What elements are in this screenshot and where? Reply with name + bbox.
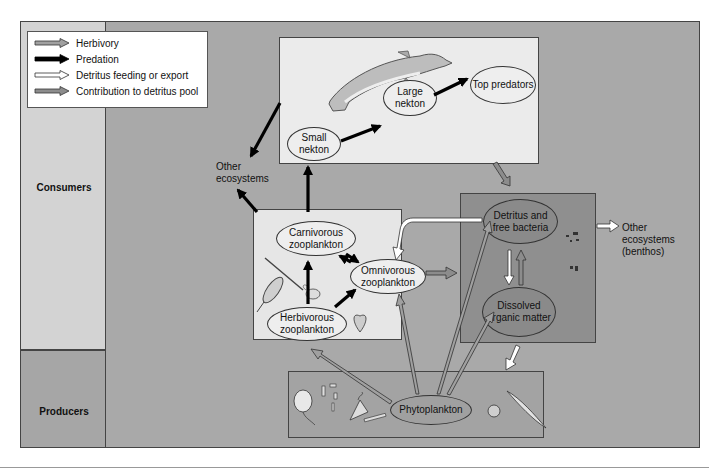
node-small-nekton: Small nekton (287, 127, 341, 161)
node-carnivorous-zooplankton: Carnivorous zooplankton (276, 221, 356, 256)
consumers-label: Consumers (21, 182, 107, 193)
legend-item-detritus-feeding: Detritus feeding or export (34, 68, 188, 82)
node-herbivorous-zooplankton: Herbivorous zooplankton (267, 307, 347, 341)
legend-item-herbivory: Herbivory (34, 36, 119, 50)
contribution-arrow-icon (34, 86, 70, 96)
legend-label: Herbivory (76, 38, 119, 49)
legend-label: Detritus feeding or export (76, 70, 188, 81)
legend-item-contribution: Contribution to detritus pool (34, 84, 198, 98)
producers-band: Producers (20, 350, 106, 448)
detritus-feeding-arrow-icon (34, 70, 70, 80)
node-omnivorous-zooplankton: Omnivorous zooplankton (350, 259, 426, 294)
other-ecosystems-benthos-label: Other ecosystems (benthos) (622, 222, 675, 258)
herbivory-arrow-icon (34, 38, 70, 48)
node-top-predators: Top predators (470, 66, 536, 104)
legend-label: Predation (76, 54, 119, 65)
node-dissolved-organic-matter: Dissolved organic matter (482, 287, 556, 337)
node-phytoplankton: Phytoplankton (390, 395, 472, 425)
legend: Herbivory Predation Detritus feeding or … (27, 31, 208, 108)
legend-label: Contribution to detritus pool (76, 86, 198, 97)
node-large-nekton: Large nekton (383, 80, 437, 116)
legend-item-predation: Predation (34, 52, 119, 66)
predation-arrow-icon (34, 54, 70, 64)
producers-label: Producers (21, 406, 107, 417)
bottom-rule (0, 467, 709, 468)
node-detritus-bacteria: Detritus and free bacteria (483, 199, 558, 244)
other-ecosystems-label: Other ecosystems (216, 161, 276, 185)
